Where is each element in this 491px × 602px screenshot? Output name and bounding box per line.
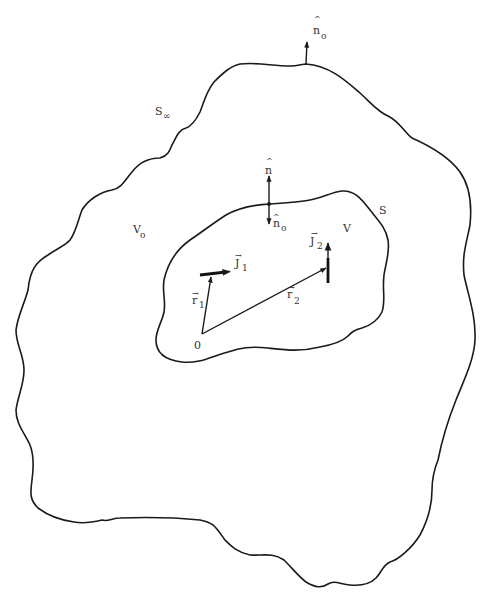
svg-text:J: J bbox=[234, 257, 239, 270]
svg-text:o: o bbox=[140, 230, 145, 240]
svg-text:^: ^ bbox=[314, 14, 321, 23]
inner-surface-label: S bbox=[379, 204, 387, 217]
outer-volume-label: V o bbox=[132, 223, 145, 240]
outer-normal-arrow bbox=[306, 42, 307, 64]
current-j2-label: → J 2 bbox=[309, 229, 323, 251]
position-vector-r2 bbox=[202, 268, 326, 334]
origin-label: 0 bbox=[194, 339, 201, 352]
current-j1-label: → J 1 bbox=[234, 251, 248, 273]
inner-normal-out-label: ^ n bbox=[265, 156, 273, 177]
svg-text:2: 2 bbox=[317, 241, 323, 251]
outer-surface-label: S ∞ bbox=[155, 105, 171, 121]
svg-text:1: 1 bbox=[199, 300, 205, 310]
svg-text:1: 1 bbox=[242, 263, 248, 273]
position-vector-r2-label: → r 2 bbox=[287, 283, 300, 306]
svg-text:S: S bbox=[155, 105, 163, 118]
svg-text:n: n bbox=[273, 217, 280, 230]
svg-text:n: n bbox=[265, 164, 272, 177]
position-vector-r1-label: → r 1 bbox=[192, 289, 205, 310]
svg-text:o: o bbox=[281, 223, 286, 233]
outer-surface-boundary bbox=[16, 63, 475, 586]
svg-text:n: n bbox=[313, 24, 320, 37]
svg-text:2: 2 bbox=[294, 296, 300, 306]
volume-diagram: ^ n o S ∞ V o ^ n ^ n o S V 0 → r 1 bbox=[0, 0, 491, 602]
inner-volume-label: V bbox=[342, 222, 352, 235]
svg-text:J: J bbox=[309, 235, 314, 248]
svg-text:o: o bbox=[321, 31, 326, 41]
inner-normal-in-label: ^ n o bbox=[273, 212, 286, 233]
svg-text:r: r bbox=[192, 294, 198, 307]
svg-text:r: r bbox=[287, 288, 293, 301]
svg-text:∞: ∞ bbox=[163, 111, 171, 121]
outer-normal-label: ^ n o bbox=[313, 14, 326, 41]
